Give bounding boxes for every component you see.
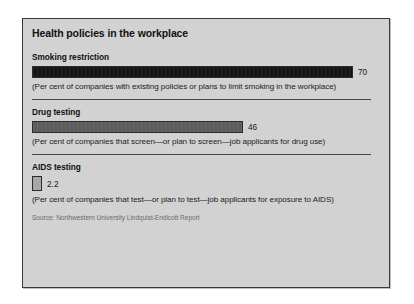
chart-source: Source: Northwestern University Lindquis…: [32, 214, 381, 222]
chart-panel: Health policies in the workplace Smoking…: [22, 18, 390, 288]
chart-section-aids-testing: AIDS testing 2.2 (Per cent of companies …: [32, 162, 381, 205]
section-divider-2: [32, 154, 371, 155]
category-label-aids-testing: AIDS testing: [32, 162, 381, 172]
bar-row-drug-testing: 46: [32, 121, 381, 133]
caption-aids-testing: (Per cent of companies that test—or plan…: [32, 195, 362, 205]
chart-figure: Health policies in the workplace Smoking…: [0, 0, 414, 304]
bar-value-aids-testing: 2.2: [47, 179, 59, 189]
chart-section-drug-testing: Drug testing 46 (Per cent of companies t…: [32, 107, 381, 147]
chart-title: Health policies in the workplace: [32, 27, 381, 39]
chart-section-smoking-restriction: Smoking restriction 70 (Per cent of comp…: [32, 52, 381, 92]
section-divider-1: [32, 99, 371, 100]
bar-value-smoking-restriction: 70: [358, 67, 367, 77]
chart-content: Health policies in the workplace Smoking…: [32, 27, 381, 281]
bar-aids-testing: [32, 176, 42, 191]
bar-smoking-restriction: [32, 66, 353, 78]
bar-row-aids-testing: 2.2: [32, 176, 381, 191]
category-label-smoking-restriction: Smoking restriction: [32, 52, 381, 62]
bar-value-drug-testing: 46: [248, 122, 257, 132]
caption-smoking-restriction: (Per cent of companies with existing pol…: [32, 82, 362, 92]
bar-row-smoking-restriction: 70: [32, 66, 381, 78]
bar-drug-testing: [32, 121, 243, 133]
category-label-drug-testing: Drug testing: [32, 107, 381, 117]
caption-drug-testing: (Per cent of companies that screen—or pl…: [32, 137, 362, 147]
